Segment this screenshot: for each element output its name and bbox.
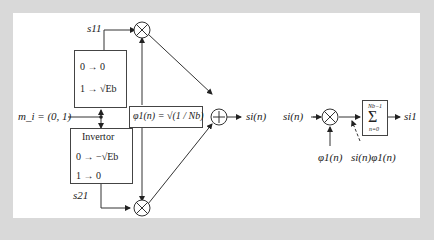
sum-lower-limit: n=0 [369,126,379,132]
correlator-input-label: si(n) [283,111,303,122]
basis-function-label: φ1(n) = √(1 / Nb) [133,111,204,121]
upper-mapping-box [74,50,127,108]
sigma-symbol: Σ [368,109,377,125]
lower-map-line-1: 0 → −√Eb [76,152,118,162]
s21-label: s21 [73,190,88,201]
lower-map-line-2: 1 → 0 [76,171,101,181]
product-label: si(n)φ1(n) [351,152,396,163]
invertor-title: Invertor [82,132,114,142]
s11-label: s11 [87,23,101,34]
correlator-basis-label: φ1(n) [318,152,342,163]
modulator-output-label: si(n) [246,111,266,122]
input-mi-label: m_i = (0, 1) [18,111,71,122]
correlator-output-label: si1 [404,111,417,122]
upper-map-line-1: 0 → 0 [80,62,105,72]
upper-map-line-2: 1 → √Eb [80,84,117,94]
